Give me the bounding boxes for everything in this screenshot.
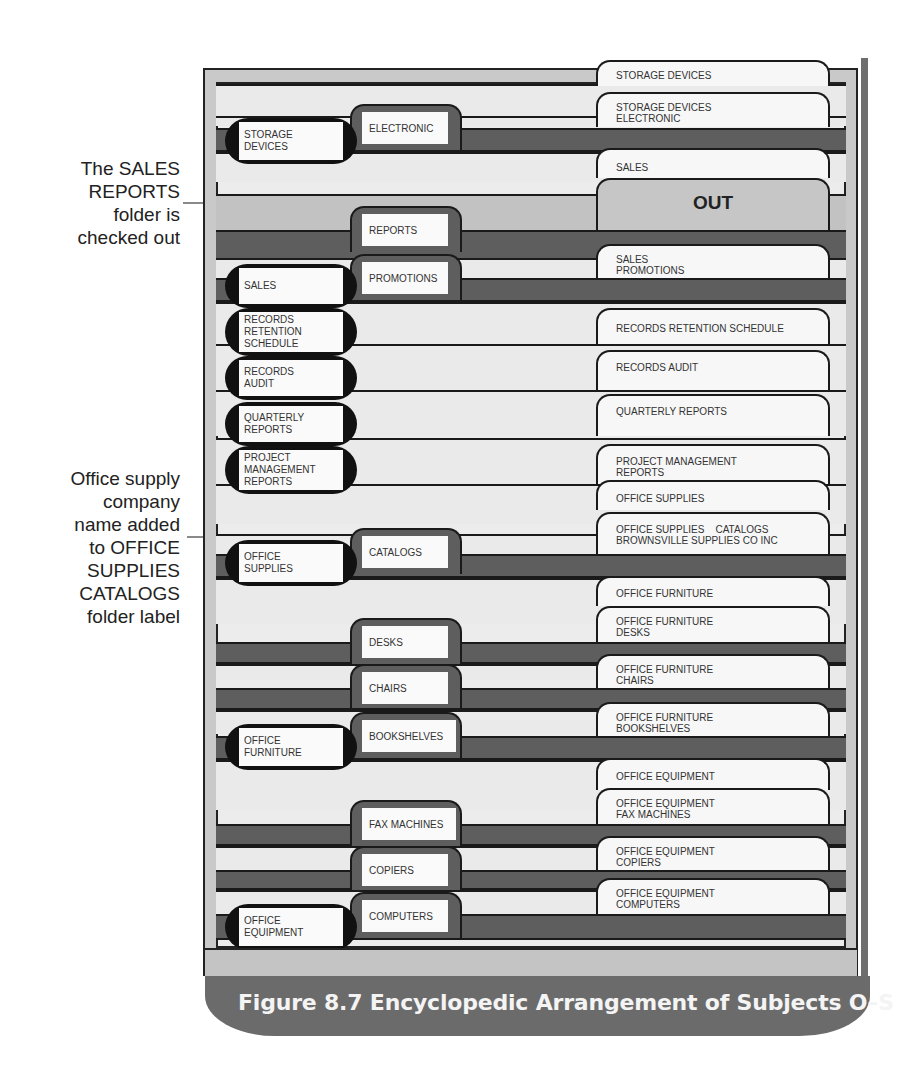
folder-tab-label: SALES PROMOTIONS: [616, 254, 684, 276]
folder-tab-label: RECORDS RETENTION SCHEDULE: [616, 323, 784, 334]
folder-tab-label: OFFICE FURNITURE BOOKSHELVES: [616, 712, 713, 734]
folder-tab-label: STORAGE DEVICES ELECTRONIC: [616, 102, 711, 124]
primary-guide-project-management[interactable]: PROJECT MANAGEMENT REPORTS: [225, 446, 357, 494]
folder-tab-label: OFFICE SUPPLIES CATALOGS BROWNSVILLE SUP…: [616, 524, 778, 546]
primary-guide-office-furniture[interactable]: OFFICE FURNITURE: [225, 724, 357, 770]
folder-tab-label: QUARTERLY REPORTS: [616, 406, 727, 417]
secondary-guide-label: ELECTRONIC: [362, 112, 448, 144]
figure-caption: Figure 8.7 Encyclopedic Arrangement of S…: [238, 990, 894, 1015]
folder-tab[interactable]: OFFICE SUPPLIES CATALOGS BROWNSVILLE SUP…: [596, 512, 830, 554]
primary-guide-label: RECORDS AUDIT: [239, 360, 343, 396]
folder-tab[interactable]: OFFICE FURNITURE: [596, 576, 830, 606]
folder-tab[interactable]: RECORDS AUDIT: [596, 350, 830, 390]
secondary-guide-label: CATALOGS: [362, 536, 448, 568]
folder-tab[interactable]: OFFICE FURNITURE CHAIRS: [596, 654, 830, 688]
folder-tab[interactable]: OFFICE EQUIPMENT COMPUTERS: [596, 878, 830, 914]
folder-tab[interactable]: STORAGE DEVICES ELECTRONIC: [596, 92, 830, 127]
folder-tab-label: PROJECT MANAGEMENT REPORTS: [616, 456, 737, 478]
secondary-guide-bookshelves[interactable]: BOOKSHELVES: [350, 712, 462, 758]
drawer-back-panel: [861, 58, 868, 978]
secondary-guide-chairs[interactable]: CHAIRS: [350, 664, 462, 708]
folder-tab[interactable]: PROJECT MANAGEMENT REPORTS: [596, 444, 830, 484]
primary-guide-label: PROJECT MANAGEMENT REPORTS: [239, 450, 343, 490]
primary-guide-storage-devices[interactable]: STORAGE DEVICES: [225, 118, 357, 164]
secondary-guide-label: PROMOTIONS: [362, 262, 448, 294]
secondary-guide-catalogs[interactable]: CATALOGS: [350, 528, 462, 574]
primary-guide-label: QUARTERLY REPORTS: [239, 406, 343, 442]
primary-guide-label: OFFICE FURNITURE: [239, 728, 343, 766]
secondary-guide-reports[interactable]: REPORTS: [350, 206, 462, 252]
folder-tab-label: STORAGE DEVICES: [616, 70, 711, 81]
folder-tab-label: RECORDS AUDIT: [616, 362, 698, 373]
primary-guide-label: OFFICE SUPPLIES: [239, 544, 343, 582]
primary-guide-sales[interactable]: SALES: [225, 264, 357, 308]
primary-guide-quarterly-reports[interactable]: QUARTERLY REPORTS: [225, 402, 357, 446]
folder-tab-label: OFFICE FURNITURE CHAIRS: [616, 664, 713, 686]
secondary-guide-label: COPIERS: [362, 854, 448, 886]
primary-guide-label: SALES: [239, 268, 343, 304]
folder-tab-label: OFFICE FURNITURE: [616, 588, 713, 599]
folder-tab[interactable]: STORAGE DEVICES: [596, 60, 830, 86]
secondary-guide-promotions[interactable]: PROMOTIONS: [350, 254, 462, 300]
folder-tab[interactable]: OFFICE FURNITURE BOOKSHELVES: [596, 702, 830, 736]
folder-tab-label: SALES: [616, 162, 648, 173]
secondary-guide-copiers[interactable]: COPIERS: [350, 846, 462, 890]
primary-guide-records-audit[interactable]: RECORDS AUDIT: [225, 356, 357, 400]
primary-guide-label: OFFICE EQUIPMENT: [239, 908, 343, 946]
folder-tab[interactable]: SALES PROMOTIONS: [596, 244, 830, 280]
folder-tab[interactable]: OFFICE EQUIPMENT COPIERS: [596, 836, 830, 870]
secondary-guide-label: FAX MACHINES: [362, 808, 456, 840]
secondary-guide-label: COMPUTERS: [362, 900, 448, 932]
primary-guide-label: STORAGE DEVICES: [239, 122, 343, 160]
secondary-guide-electronic[interactable]: ELECTRONIC: [350, 104, 462, 150]
out-label: OUT: [598, 192, 828, 214]
secondary-guide-fax-machines[interactable]: FAX MACHINES: [350, 800, 462, 846]
folder-tab[interactable]: OFFICE FURNITURE DESKS: [596, 606, 830, 642]
folder-tab[interactable]: RECORDS RETENTION SCHEDULE: [596, 308, 830, 344]
folder-tab-label: OFFICE EQUIPMENT FAX MACHINES: [616, 798, 715, 820]
primary-guide-office-supplies[interactable]: OFFICE SUPPLIES: [225, 540, 357, 586]
folder-tab[interactable]: QUARTERLY REPORTS: [596, 394, 830, 436]
primary-guide-label: RECORDS RETENTION SCHEDULE: [239, 312, 343, 352]
secondary-guide-computers[interactable]: COMPUTERS: [350, 892, 462, 938]
callout-checked-out: The SALES REPORTS folder is checked out: [40, 157, 180, 249]
secondary-guide-label: DESKS: [362, 626, 448, 658]
primary-guide-office-equipment[interactable]: OFFICE EQUIPMENT: [225, 904, 357, 950]
folder-tab-label: OFFICE EQUIPMENT COPIERS: [616, 846, 715, 868]
folder-tab-label: OFFICE FURNITURE DESKS: [616, 616, 713, 638]
secondary-guide-desks[interactable]: DESKS: [350, 618, 462, 664]
secondary-guide-label: REPORTS: [362, 214, 448, 246]
primary-guide-records-retention[interactable]: RECORDS RETENTION SCHEDULE: [225, 308, 357, 356]
callout-company-name: Office supply company name added to OFFI…: [20, 467, 180, 628]
folder-tab[interactable]: OFFICE EQUIPMENT FAX MACHINES: [596, 788, 830, 824]
folder-tab-label: OFFICE EQUIPMENT COMPUTERS: [616, 888, 715, 910]
folder-tab-label: OFFICE EQUIPMENT: [616, 771, 715, 782]
folder-tab-label: OFFICE SUPPLIES: [616, 493, 704, 504]
folder-tab[interactable]: OFFICE EQUIPMENT: [596, 758, 830, 790]
out-guide-tab[interactable]: OUT: [596, 178, 830, 230]
folder-tab[interactable]: OFFICE SUPPLIES: [596, 480, 830, 510]
secondary-guide-label: BOOKSHELVES: [362, 720, 456, 752]
drawer-front-lip: [205, 948, 857, 976]
folder-tab[interactable]: SALES: [596, 148, 830, 178]
secondary-guide-label: CHAIRS: [362, 672, 448, 704]
